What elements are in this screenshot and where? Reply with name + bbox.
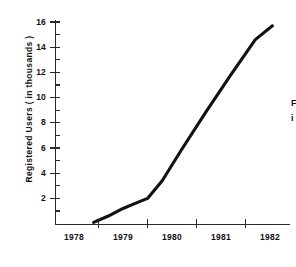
line-chart: Registered Users ( in thousands ) 246810… xyxy=(0,0,296,267)
data-line-plot xyxy=(0,0,296,267)
series-registered-users xyxy=(94,26,273,223)
side-note-line-2: i xyxy=(291,113,296,123)
side-note-line-1: F xyxy=(291,98,296,108)
